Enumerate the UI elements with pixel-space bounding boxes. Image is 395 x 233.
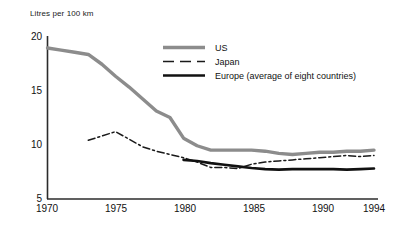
y-tick-label: 20: [31, 31, 43, 42]
x-tick-label: 1980: [174, 203, 197, 214]
fuel-consumption-chart: Litres per 100 km 20 15 10 5 1970 1975 1…: [0, 0, 395, 233]
x-tick-label: 1970: [36, 203, 59, 214]
legend-label-japan: Japan: [215, 57, 240, 67]
x-tick-label: 1994: [363, 203, 386, 214]
x-tick-label: 1985: [243, 203, 266, 214]
legend-label-europe: Europe (average of eight countries): [215, 71, 356, 81]
x-tick-label: 1990: [312, 203, 335, 214]
y-tick-label: 15: [31, 85, 43, 96]
chart-plot-area: 20 15 10 5 1970 1975 1980 1985 1990 1994…: [0, 0, 395, 233]
x-tick-label: 1975: [105, 203, 128, 214]
series-line-us: [48, 48, 375, 155]
legend-label-us: US: [215, 43, 228, 53]
y-tick-label: 10: [31, 139, 43, 150]
